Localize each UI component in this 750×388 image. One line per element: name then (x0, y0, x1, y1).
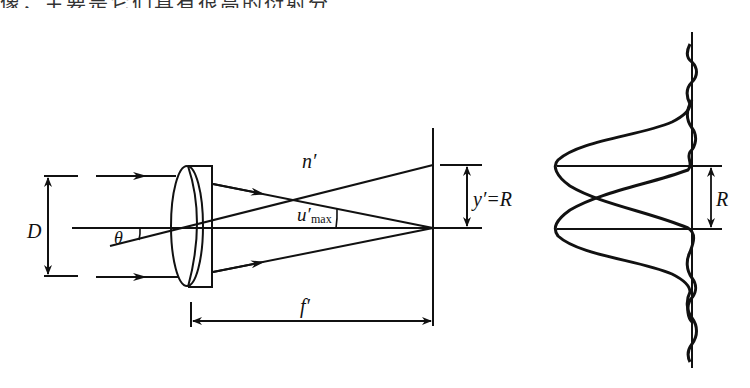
n-prime-label: n′ (302, 150, 317, 172)
chief-ray (110, 165, 433, 246)
image-height-label: y′=R (471, 188, 512, 211)
incoming-rays (96, 176, 178, 277)
optics-diagram: D θ n′ u′ max y′=R f′ R (0, 0, 750, 388)
right-figure (555, 32, 722, 368)
airy-profile-upper (555, 44, 696, 322)
u-max-label: u′ (297, 204, 312, 225)
aperture-label: D (26, 220, 42, 242)
u-max-subscript: max (311, 212, 332, 226)
theta-label: θ (114, 228, 123, 248)
separation-label: R (715, 188, 728, 210)
aperture-dimension (44, 176, 78, 276)
left-figure (44, 128, 482, 327)
airy-profile-lower (555, 100, 696, 362)
theta-arc (139, 228, 140, 240)
u-max-arc (336, 209, 337, 228)
focal-length-label: f′ (300, 295, 311, 318)
focal-length-dimension (191, 302, 431, 327)
